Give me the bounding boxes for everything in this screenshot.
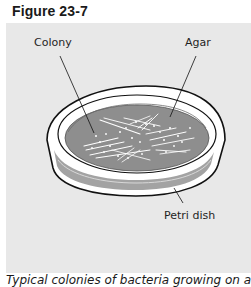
- colony-label: Colony: [34, 36, 72, 49]
- petri-dish-label: Petri dish: [164, 209, 215, 222]
- agar-label: Agar: [185, 36, 211, 49]
- figure-caption: Typical colonies of bacteria growing on …: [6, 273, 251, 287]
